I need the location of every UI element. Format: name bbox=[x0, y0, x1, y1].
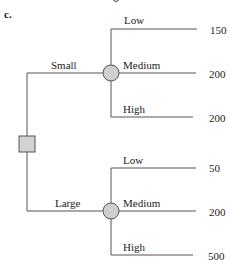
outcome-value-large-high: 500 bbox=[208, 250, 225, 260]
branch-label-small: Small bbox=[51, 59, 77, 71]
outcome-label-large-high: High bbox=[123, 241, 145, 253]
diamond-icon bbox=[108, 0, 124, 2]
outcome-value-small-high: 200 bbox=[209, 112, 226, 124]
outcome-label-large-low: Low bbox=[123, 154, 143, 166]
decision-square-icon bbox=[19, 136, 35, 152]
outcome-value-small-low: 150 bbox=[210, 24, 227, 36]
outcome-value-large-low: 50 bbox=[209, 162, 220, 174]
outcome-label-small-high: High bbox=[123, 103, 145, 115]
branch-label-large: Large bbox=[55, 197, 80, 209]
chance-circle-icon-small bbox=[103, 65, 119, 81]
outcome-value-small-medium: 200 bbox=[209, 68, 226, 80]
outcome-label-small-medium: Medium bbox=[123, 59, 160, 71]
decision-tree-diagram bbox=[0, 0, 230, 260]
outcome-label-large-medium: Medium bbox=[123, 197, 160, 209]
outcome-label-small-low: Low bbox=[124, 14, 144, 26]
part-label: c. bbox=[4, 8, 12, 20]
outcome-value-large-medium: 200 bbox=[209, 206, 226, 218]
chance-circle-icon-large bbox=[103, 203, 119, 219]
